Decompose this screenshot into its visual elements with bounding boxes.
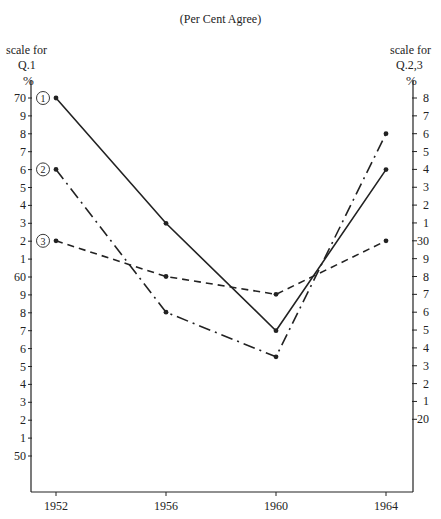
- right-axis-tick-label: 5: [423, 323, 429, 337]
- left-axis-tick-label: 9: [20, 109, 26, 123]
- x-axis-tick-label: 1964: [374, 499, 398, 513]
- right-axis-tick-label: 6: [423, 127, 429, 141]
- x-axis-tick-label: 1960: [264, 499, 288, 513]
- series-2-point: [274, 354, 279, 359]
- left-axis-tick-label: 2: [20, 413, 26, 427]
- series-3-marker-label: 3: [41, 236, 46, 247]
- right-axis-tick-label: 30: [417, 234, 429, 248]
- right-axis-tick-label: 7: [423, 287, 429, 301]
- right-axis-tick-label: 4: [423, 341, 429, 355]
- left-axis-tick-label: 2: [20, 234, 26, 248]
- right-axis-tick-label: 7: [423, 109, 429, 123]
- right-axis-tick-label: 8: [423, 91, 429, 105]
- series-3-point: [54, 238, 59, 243]
- left-axis-tick-label: 50: [14, 449, 26, 463]
- right-axis-tick-label: 1: [423, 394, 429, 408]
- left-axis-tick-label: 7: [20, 324, 26, 338]
- x-axis-tick-label: 1952: [44, 499, 68, 513]
- right-axis-tick-label: 1: [423, 216, 429, 230]
- series-1-point: [164, 221, 169, 226]
- left-axis-tick-label: 5: [20, 181, 26, 195]
- left-axis-tick-label: 6: [20, 163, 26, 177]
- left-axis-tick-label: 60: [14, 270, 26, 284]
- series-3-line: [56, 241, 386, 295]
- left-axis-tick-label: 1: [20, 431, 26, 445]
- left-axis-tick-label: 4: [20, 198, 26, 212]
- right-axis-tick-label: 6: [423, 305, 429, 319]
- right-axis-tick-label: 2: [423, 198, 429, 212]
- series-3-point: [274, 292, 279, 297]
- series-2-point: [164, 310, 169, 315]
- right-axis-tick-label: 3: [423, 359, 429, 373]
- right-axis-tick-label: 9: [423, 252, 429, 266]
- right-axis-tick-label: 2: [423, 377, 429, 391]
- left-axis-tick-label: 6: [20, 342, 26, 356]
- series-2-point: [54, 167, 59, 172]
- series-2-line: [56, 134, 386, 357]
- series-1-point: [384, 167, 389, 172]
- series-1-point: [54, 96, 59, 101]
- series-2-marker-label: 2: [41, 164, 46, 175]
- series-2-point: [384, 131, 389, 136]
- left-axis-tick-label: 3: [20, 216, 26, 230]
- series-1-line: [56, 98, 386, 331]
- right-axis-tick-label: 3: [423, 180, 429, 194]
- series-1-point: [274, 328, 279, 333]
- right-axis-tick-label: 5: [423, 145, 429, 159]
- right-axis-tick-label: 4: [423, 162, 429, 176]
- line-chart: 7098765432160987654321508765432130987654…: [0, 0, 441, 519]
- series-1-marker-label: 1: [41, 93, 46, 104]
- left-axis-tick-label: 7: [20, 145, 26, 159]
- left-axis-tick-label: 70: [14, 91, 26, 105]
- left-axis-tick-label: 4: [20, 377, 26, 391]
- right-axis-tick-label: 8: [423, 270, 429, 284]
- x-axis-tick-label: 1956: [154, 499, 178, 513]
- left-axis-tick-label: 1: [20, 252, 26, 266]
- left-axis-tick-label: 8: [20, 127, 26, 141]
- left-axis-tick-label: 5: [20, 360, 26, 374]
- left-axis-tick-label: 9: [20, 288, 26, 302]
- series-3-point: [164, 274, 169, 279]
- left-axis-tick-label: 3: [20, 395, 26, 409]
- left-axis-tick-label: 8: [20, 306, 26, 320]
- series-3-point: [384, 238, 389, 243]
- right-axis-tick-label: 20: [417, 412, 429, 426]
